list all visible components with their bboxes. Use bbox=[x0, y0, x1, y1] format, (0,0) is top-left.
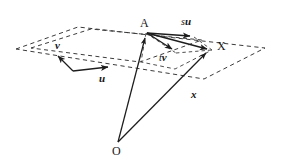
label-vector-u: u bbox=[99, 73, 105, 84]
label-point-x: X bbox=[217, 40, 226, 52]
label-vector-v: v bbox=[55, 40, 60, 51]
vector-u-arrow bbox=[73, 67, 108, 71]
label-point-a: A bbox=[140, 17, 149, 29]
parallelogram-construction-lines bbox=[141, 33, 212, 69]
label-su-vector: u bbox=[185, 15, 191, 27]
vector-tv-arrow bbox=[147, 33, 172, 49]
label-vector-x: x bbox=[191, 89, 197, 100]
label-tv: tv bbox=[159, 52, 167, 63]
label-su: su bbox=[181, 16, 191, 27]
vector-diagram-figure: A X O v u su tv x bbox=[0, 0, 281, 167]
vector-o-to-a-arrow bbox=[118, 38, 145, 142]
vector-v-arrow bbox=[58, 56, 73, 71]
lower-cell-lines bbox=[141, 33, 212, 69]
label-point-o: O bbox=[112, 145, 121, 157]
label-tv-vector: v bbox=[162, 51, 167, 63]
